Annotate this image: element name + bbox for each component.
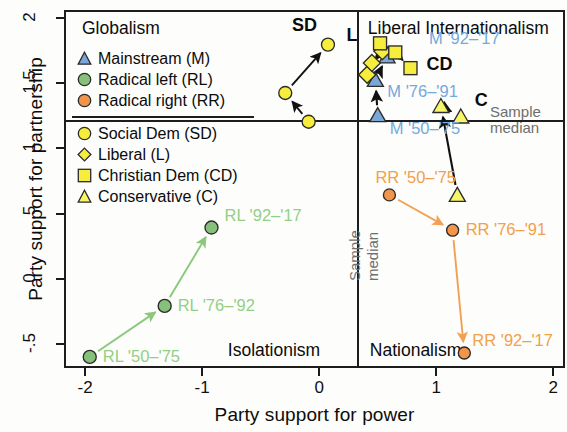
data-point-label-m-76-91: M '76–'91 — [387, 82, 458, 101]
x-tick-label: -1 — [182, 378, 222, 398]
data-point-label-l: L — [346, 25, 357, 46]
legend-item-label: Christian Dem (CD) — [98, 167, 238, 185]
x-tick-label: 0 — [299, 378, 339, 398]
legend-item-label: Liberal (L) — [98, 146, 170, 164]
legend-item-label: Radical right (RR) — [98, 92, 225, 110]
sample-median-line1: Sample — [490, 104, 541, 120]
legend-item[interactable]: Social Dem (SD) — [72, 123, 254, 144]
circle-marker-icon — [72, 72, 96, 87]
triangle-marker-icon — [72, 51, 96, 66]
circle-marker-icon — [72, 93, 96, 108]
data-point-label-rl-50-75: RL '50–'75 — [103, 347, 180, 366]
data-point-label-rr-76-91: RR '76–'91 — [466, 220, 547, 239]
x-tick-label: 2 — [533, 378, 567, 398]
data-point-label-cd: CD — [426, 54, 452, 75]
legend-group-party-type: Social Dem (SD)Liberal (L)Christian Dem … — [72, 123, 254, 207]
quadrant-label-isolationism: Isolationism — [228, 340, 320, 361]
legend-item[interactable]: Christian Dem (CD) — [72, 165, 254, 186]
sample-median-label-horizontal: Sample median — [490, 104, 541, 136]
x-tick-mark — [201, 368, 203, 376]
legend-item[interactable]: Radical left (RL) — [72, 69, 254, 90]
x-tick-mark — [435, 368, 437, 376]
data-point-label-m-50-75: M '50–'75 — [390, 119, 461, 138]
quadrant-label-nationalism: Nationalism — [370, 340, 461, 361]
sample-median-line2: median — [490, 120, 541, 136]
circle-marker-icon — [72, 126, 96, 141]
legend-item-label: Radical left (RL) — [98, 71, 213, 89]
x-tick-mark — [84, 368, 86, 376]
data-point-label-m-92-17: M '92–'17 — [429, 29, 500, 48]
diamond-marker-icon — [72, 147, 96, 162]
triangle-marker-icon — [72, 189, 96, 204]
sample-median-label-vertical-2: median — [364, 232, 381, 281]
x-tick-label: 1 — [416, 378, 456, 398]
sample-median-vertical-line — [357, 10, 359, 368]
data-point-label-c: C — [475, 90, 488, 111]
sample-median-label-vertical-1: Sample — [346, 230, 363, 281]
legend-item-label: Conservative (C) — [98, 188, 218, 206]
legend-item[interactable]: Conservative (C) — [72, 186, 254, 207]
x-tick-label: -2 — [65, 378, 105, 398]
legend: Mainstream (M)Radical left (RL)Radical r… — [72, 48, 254, 207]
quadrant-label-globalism: Globalism — [82, 18, 160, 39]
data-point-label-sd: SD — [292, 15, 317, 36]
x-tick-mark — [318, 368, 320, 376]
data-point-label-rr-50-75: RR '50–'75 — [375, 168, 456, 187]
legend-item-label: Mainstream (M) — [98, 50, 210, 68]
legend-item[interactable]: Mainstream (M) — [72, 48, 254, 69]
legend-group-party-family: Mainstream (M)Radical left (RL)Radical r… — [72, 48, 254, 111]
data-point-label-rl-76-92: RL '76–'92 — [178, 296, 255, 315]
data-point-label-rl-92-17: RL '92–'17 — [224, 206, 301, 225]
legend-item[interactable]: Radical right (RR) — [72, 90, 254, 111]
legend-item[interactable]: Liberal (L) — [72, 144, 254, 165]
square-marker-icon — [72, 168, 96, 183]
legend-divider — [72, 116, 254, 118]
data-point-label-rr-92-17: RR '92–'17 — [472, 331, 553, 350]
x-tick-mark — [552, 368, 554, 376]
legend-item-label: Social Dem (SD) — [98, 125, 217, 143]
scatter-plot-figure: Party support for partnership Party supp… — [0, 0, 567, 432]
